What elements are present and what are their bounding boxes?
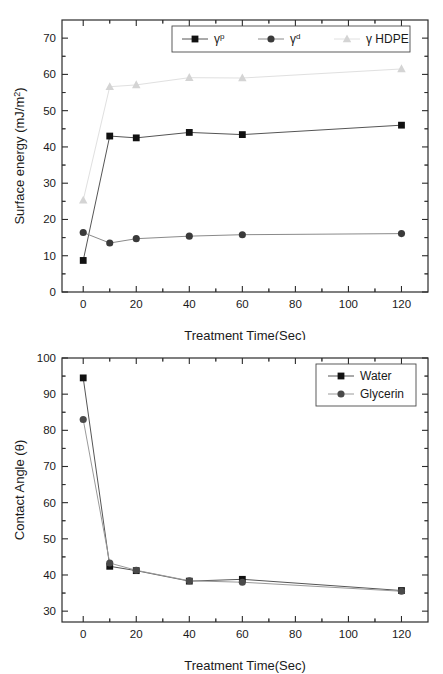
data-point-glycerin bbox=[80, 416, 87, 423]
y-axis-label-tail: ) bbox=[12, 87, 27, 91]
data-point-glycerin bbox=[186, 577, 193, 584]
data-point-gamma-p bbox=[239, 131, 246, 138]
series-gamma-p bbox=[80, 122, 405, 264]
data-point-gamma-p bbox=[186, 129, 193, 136]
data-point-glycerin bbox=[239, 579, 246, 586]
y-tick-label: 40 bbox=[43, 141, 56, 153]
data-point-glycerin bbox=[398, 588, 405, 595]
x-tick-label: 60 bbox=[236, 628, 249, 640]
x-axis-label: Treatment Time(Sec) bbox=[184, 328, 306, 340]
x-tick-label: 0 bbox=[80, 628, 86, 640]
legend-label-glycerin: Glycerin bbox=[360, 387, 404, 401]
data-point-gamma-d bbox=[398, 230, 405, 237]
y-tick-label: 70 bbox=[43, 32, 56, 44]
y-tick-label: 60 bbox=[43, 68, 56, 80]
legend-marker-glycerin bbox=[337, 390, 344, 397]
data-point-glycerin bbox=[133, 567, 140, 574]
contact-angle-chart: 30405060708090100020406080100120Treatmen… bbox=[0, 340, 443, 674]
data-point-gamma-p bbox=[398, 122, 405, 129]
x-tick-label: 100 bbox=[339, 628, 358, 640]
legend-label-base-glycerin: Glycerin bbox=[360, 387, 404, 401]
data-point-gamma-d bbox=[133, 235, 140, 242]
data-point-gamma-p bbox=[133, 134, 140, 141]
y-tick-label: 40 bbox=[43, 569, 56, 581]
legend-marker-gamma-d bbox=[267, 35, 274, 42]
x-tick-label: 0 bbox=[80, 298, 86, 310]
figure-container: 010203040506070020406080100120Treatment … bbox=[0, 0, 443, 674]
data-point-gamma-d bbox=[239, 231, 246, 238]
x-axis-label: Treatment Time(Sec) bbox=[184, 658, 306, 673]
x-tick-label: 60 bbox=[236, 298, 249, 310]
data-point-gamma-p bbox=[106, 133, 113, 140]
y-tick-label: 0 bbox=[50, 286, 56, 298]
legend-label-water: Water bbox=[360, 369, 392, 383]
x-tick-label: 40 bbox=[183, 628, 196, 640]
data-point-gamma-d bbox=[186, 233, 193, 240]
data-point-gamma-d bbox=[106, 239, 113, 246]
data-point-gamma-d bbox=[80, 229, 87, 236]
surface-energy-chart: 010203040506070020406080100120Treatment … bbox=[0, 0, 443, 340]
series-line-glycerin bbox=[83, 419, 401, 591]
series-line-water bbox=[83, 378, 401, 591]
y-tick-label: 100 bbox=[37, 352, 56, 364]
data-point-gamma-hdpe bbox=[238, 73, 246, 81]
data-point-water bbox=[80, 374, 87, 381]
series-gamma-d bbox=[80, 229, 405, 247]
data-point-glycerin bbox=[106, 559, 113, 566]
y-tick-label: 50 bbox=[43, 105, 56, 117]
y-tick-label: 50 bbox=[43, 533, 56, 545]
legend-label-sup-gamma-d: d bbox=[296, 32, 300, 41]
y-tick-label: 10 bbox=[43, 250, 56, 262]
surface-energy-svg: 010203040506070020406080100120Treatment … bbox=[0, 0, 443, 340]
data-point-gamma-hdpe bbox=[185, 73, 193, 81]
legend-label-sup-gamma-p: p bbox=[220, 32, 225, 41]
legend-marker-gamma-p bbox=[192, 36, 199, 43]
y-tick-label: 60 bbox=[43, 497, 56, 509]
x-tick-label: 120 bbox=[392, 298, 411, 310]
series-water bbox=[80, 374, 405, 593]
series-line-gamma-p bbox=[83, 125, 401, 260]
x-tick-label: 120 bbox=[392, 628, 411, 640]
axes: 010203040506070020406080100120 bbox=[43, 20, 428, 310]
data-point-gamma-hdpe bbox=[397, 64, 405, 72]
plot-frame bbox=[62, 20, 428, 292]
y-tick-label: 80 bbox=[43, 424, 56, 436]
y-tick-label: 20 bbox=[43, 213, 56, 225]
x-tick-label: 20 bbox=[130, 298, 143, 310]
legend: WaterGlycerin bbox=[316, 364, 416, 406]
x-tick-label: 40 bbox=[183, 298, 196, 310]
y-tick-label: 90 bbox=[43, 388, 56, 400]
legend-marker-water bbox=[338, 373, 345, 380]
y-tick-label: 30 bbox=[43, 605, 56, 617]
y-axis-label: Contact Angle (θ) bbox=[12, 440, 27, 540]
y-tick-label: 30 bbox=[43, 177, 56, 189]
y-tick-label: 70 bbox=[43, 460, 56, 472]
legend-label-gamma-hdpe: γ HDPE bbox=[366, 32, 409, 46]
data-point-gamma-p bbox=[80, 257, 87, 264]
contact-angle-svg: 30405060708090100020406080100120Treatmen… bbox=[0, 340, 443, 674]
legend-label-base-water: Water bbox=[360, 369, 392, 383]
y-axis-label-main: Surface energy (mJ/m bbox=[12, 97, 27, 225]
legend: γpγdγ HDPE bbox=[172, 26, 410, 52]
y-axis-label: Surface energy (mJ/m2) bbox=[12, 87, 27, 224]
data-point-gamma-hdpe bbox=[79, 196, 87, 204]
x-tick-label: 20 bbox=[130, 628, 143, 640]
x-tick-label: 100 bbox=[339, 298, 358, 310]
x-tick-label: 80 bbox=[289, 628, 302, 640]
legend-label-base-gamma-hdpe: γ HDPE bbox=[366, 32, 409, 46]
series-glycerin bbox=[80, 416, 405, 595]
x-tick-label: 80 bbox=[289, 298, 302, 310]
